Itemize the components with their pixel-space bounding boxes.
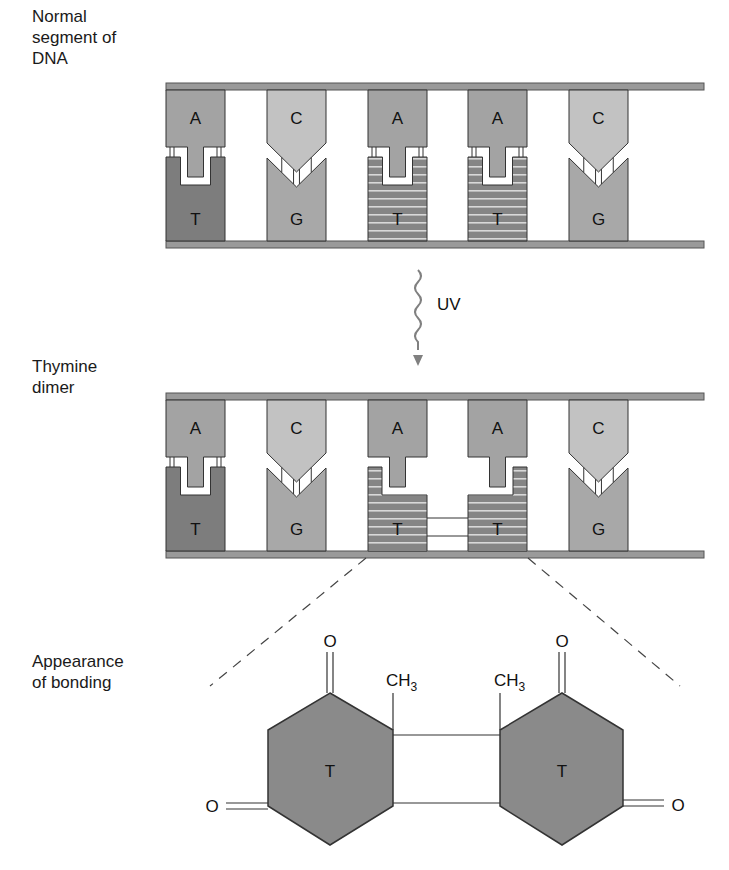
base-pair-C-G: CG: [267, 90, 326, 241]
base-pair-A-T: AT: [468, 90, 527, 241]
uv-label: UV: [437, 295, 461, 314]
panel-normal-segment: ATCGATATCG: [166, 83, 704, 248]
zoom-line-left: [210, 558, 366, 686]
base-letter: A: [392, 419, 404, 438]
cytosine-base: [569, 400, 628, 482]
backbone-strand-top: [166, 393, 704, 400]
ring-label-right: T: [557, 762, 567, 781]
oxygen-right: O: [671, 796, 684, 815]
ring-label-left: T: [325, 762, 335, 781]
backbone-strand-bottom: [166, 241, 704, 248]
base-letter: C: [592, 109, 604, 128]
panel-thymine-dimer: ATCGATATCG: [166, 393, 704, 558]
cytosine-base: [267, 90, 326, 172]
base-letter: G: [592, 520, 605, 539]
base-letter: T: [492, 520, 502, 539]
base-letter: C: [290, 109, 302, 128]
base-letter: C: [592, 419, 604, 438]
cytosine-base: [569, 90, 628, 172]
base-letter: C: [290, 419, 302, 438]
base-pair-A-T: AT: [368, 90, 427, 241]
base-letter: A: [190, 109, 202, 128]
base-letter: A: [392, 109, 404, 128]
base-pair-A-T: AT: [166, 400, 225, 551]
base-pair-C-G: CG: [569, 400, 628, 551]
backbone-strand-top: [166, 83, 704, 90]
wavy-arrow-icon: [415, 270, 421, 350]
base-letter: T: [190, 210, 200, 229]
uv-arrow: UV: [413, 270, 461, 366]
base-letter: T: [492, 210, 502, 229]
thymine-dimer-structure: T T O O O O CH3 CH3: [205, 632, 684, 845]
base-letter: A: [492, 109, 504, 128]
base-pair-A-T: AT: [368, 400, 468, 551]
oxygen-left: O: [205, 797, 218, 816]
base-pair-C-G: CG: [569, 90, 628, 241]
cytosine-base: [267, 400, 326, 482]
base-letter: A: [190, 419, 202, 438]
base-letter: G: [290, 520, 303, 539]
base-letter: T: [392, 520, 402, 539]
base-letter: G: [290, 210, 303, 229]
oxygen-top-right: O: [555, 632, 568, 651]
dna-diagram: ATCGATATCG ATCGATATCG UV T T O O O O: [0, 0, 729, 870]
backbone-strand-bottom: [166, 551, 704, 558]
base-letter: A: [492, 419, 504, 438]
base-letter: T: [392, 210, 402, 229]
arrowhead-icon: [413, 355, 423, 366]
base-pair-A-T: AT: [166, 90, 225, 241]
oxygen-top-left: O: [323, 632, 336, 651]
base-letter: T: [190, 520, 200, 539]
methyl-left: CH3: [386, 671, 418, 694]
methyl-right: CH3: [494, 671, 526, 694]
base-pair-A-T: AT: [468, 400, 527, 551]
zoom-line-right: [528, 558, 680, 686]
base-letter: G: [592, 210, 605, 229]
base-pair-C-G: CG: [267, 400, 326, 551]
